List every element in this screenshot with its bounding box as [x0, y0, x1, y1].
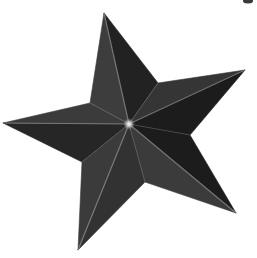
star-facets — [3, 13, 245, 250]
star-graphic — [0, 0, 257, 258]
image-canvas: 3D faceted five-pointed star — [0, 0, 257, 258]
corner-artifact — [243, 0, 253, 4]
center-highlight — [123, 118, 135, 130]
